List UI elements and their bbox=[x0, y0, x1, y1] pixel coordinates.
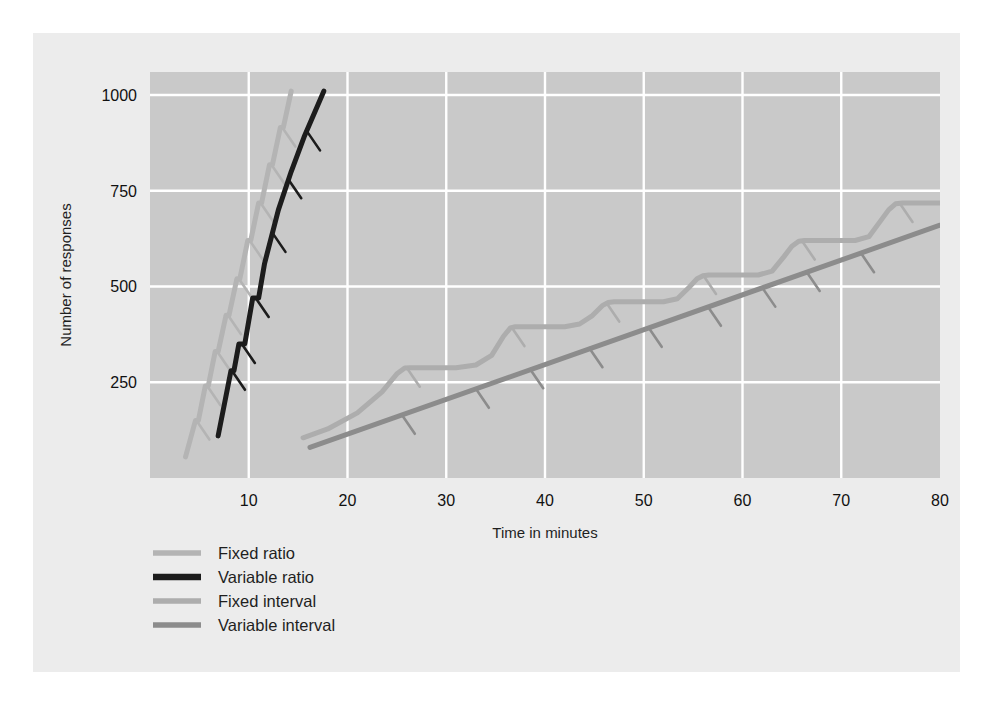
figure-card: 10203040506070802505007501000Time in min… bbox=[33, 33, 960, 672]
x-tick-label: 40 bbox=[536, 492, 554, 509]
x-tick-label: 10 bbox=[240, 492, 258, 509]
x-tick-label: 60 bbox=[734, 492, 752, 509]
legend-item-label: Fixed interval bbox=[218, 592, 316, 610]
chart-legend: Fixed ratioVariable ratioFixed intervalV… bbox=[153, 544, 335, 634]
x-tick-label: 50 bbox=[635, 492, 653, 509]
y-tick-label: 1000 bbox=[101, 87, 137, 104]
legend-item-label: Variable interval bbox=[218, 616, 335, 634]
x-tick-labels: 1020304050607080 bbox=[240, 492, 949, 509]
y-tick-label: 250 bbox=[110, 374, 137, 391]
x-tick-label: 80 bbox=[931, 492, 949, 509]
y-tick-label: 500 bbox=[110, 278, 137, 295]
cumulative-response-chart: 10203040506070802505007501000Time in min… bbox=[33, 33, 960, 672]
figure-caption bbox=[120, 682, 820, 702]
legend-item-label: Variable ratio bbox=[218, 568, 314, 586]
y-axis-label: Number of responses bbox=[57, 203, 74, 346]
x-tick-label: 30 bbox=[437, 492, 455, 509]
x-tick-label: 20 bbox=[339, 492, 357, 509]
legend-item-label: Fixed ratio bbox=[218, 544, 295, 562]
y-tick-label: 750 bbox=[110, 183, 137, 200]
x-axis-label: Time in minutes bbox=[492, 524, 597, 541]
y-tick-labels: 2505007501000 bbox=[101, 87, 137, 391]
x-tick-label: 70 bbox=[832, 492, 850, 509]
